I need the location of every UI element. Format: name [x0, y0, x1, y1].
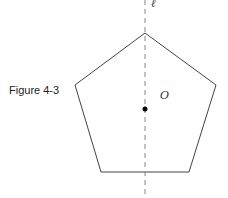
center-label: O	[160, 89, 169, 102]
center-point	[143, 107, 148, 112]
pentagon-diagram	[0, 0, 228, 198]
figure-caption: Figure 4-3	[9, 84, 59, 96]
line-label: ℓ	[151, 0, 156, 10]
